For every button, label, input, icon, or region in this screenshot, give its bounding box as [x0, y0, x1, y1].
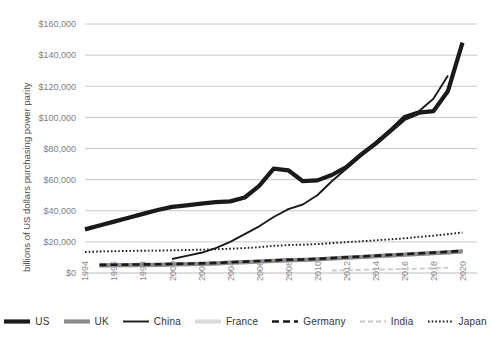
legend-item-japan[interactable]: Japan — [428, 316, 487, 327]
x-axis-tick-label: 2008 — [284, 261, 294, 281]
data-series-layer — [85, 43, 463, 271]
series-line-us — [85, 43, 463, 230]
y-axis-tick-labels: $0$20,000$40,000$60,000$80,000$100,000$1… — [38, 19, 76, 278]
legend-label: India — [391, 316, 414, 327]
x-axis-tick-label: 2018 — [429, 261, 439, 281]
legend-label: Germany — [303, 316, 346, 327]
legend-swatch-japan-icon — [428, 316, 454, 327]
y-axis-tick-label: $100,000 — [38, 113, 76, 123]
gridlines — [85, 24, 477, 273]
legend-label: Japan — [459, 316, 487, 327]
x-axis-tick-label: 2016 — [400, 261, 410, 281]
legend-item-india[interactable]: India — [360, 316, 414, 327]
chart-legend: USUKChinaFranceGermanyIndiaJapan — [0, 316, 491, 327]
y-axis-tick-label: $60,000 — [43, 175, 76, 185]
y-axis-tick-label: $160,000 — [38, 19, 76, 29]
y-axis-tick-label: $140,000 — [38, 50, 76, 60]
x-axis-tick-label: 2010 — [313, 261, 323, 281]
y-axis-tick-label: $120,000 — [38, 82, 76, 92]
y-axis-tick-label: $20,000 — [43, 237, 76, 247]
y-axis-title: billions of US dollars purchasing power … — [21, 82, 32, 272]
legend-swatch-us-icon — [4, 316, 30, 327]
y-axis-tick-label: $0 — [66, 268, 76, 278]
series-line-china — [172, 75, 448, 259]
legend-swatch-uk-icon — [64, 316, 90, 327]
legend-item-uk[interactable]: UK — [64, 316, 109, 327]
x-axis-tick-label: 1994 — [80, 261, 90, 281]
legend-swatch-germany-icon — [272, 316, 298, 327]
legend-item-france[interactable]: France — [195, 316, 258, 327]
legend-label: UK — [95, 316, 109, 327]
legend-item-germany[interactable]: Germany — [272, 316, 346, 327]
chart-container: billions of US dollars purchasing power … — [0, 0, 491, 348]
x-axis-tick-label: 2014 — [371, 261, 381, 281]
legend-item-china[interactable]: China — [123, 316, 181, 327]
legend-label: China — [154, 316, 181, 327]
legend-swatch-france-icon — [195, 316, 221, 327]
legend-item-us[interactable]: US — [4, 316, 49, 327]
legend-label: France — [226, 316, 258, 327]
y-axis-tick-label: $40,000 — [43, 206, 76, 216]
x-axis-tick-label: 2020 — [458, 261, 468, 281]
legend-swatch-india-icon — [360, 316, 386, 327]
x-axis-tick-label: 2006 — [255, 261, 265, 281]
legend-swatch-china-icon — [123, 316, 149, 327]
line-chart-plot: billions of US dollars purchasing power … — [0, 0, 491, 316]
legend-label: US — [35, 316, 49, 327]
y-axis-tick-label: $80,000 — [43, 144, 76, 154]
